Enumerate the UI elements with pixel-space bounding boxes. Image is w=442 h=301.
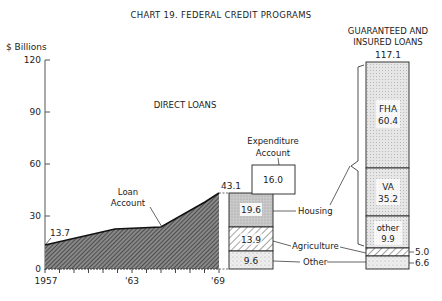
direct-total-label: 43.1 [221,181,241,191]
expenditure-label: Expenditure [247,136,298,146]
expenditure-label: Account [256,148,291,158]
housing-bracket [351,65,364,246]
loan-account-leader [150,207,162,227]
fha-value: 60.4 [378,116,398,126]
agriculture-leader-right [340,247,366,253]
other-value: 9.6 [244,256,259,266]
x-tick-label: 1957 [35,276,58,286]
chart-figure: CHART 19. FEDERAL CREDIT PROGRAMS $ Bill… [0,0,442,301]
x-tick-label: '69 [211,276,225,286]
expenditure-leader [278,158,279,165]
y-tick-label: 30 [30,211,42,221]
loan-account-label: Loan [118,187,138,197]
other-leader-left [273,261,300,262]
loan-account-label: Account [111,198,146,208]
y-tick-label: 60 [30,159,42,169]
bar-g-agriculture [366,248,409,256]
x-tick-label: '63 [125,276,139,286]
other-label: Other [303,257,328,267]
va-name: VA [382,182,395,192]
agriculture-value: 13.9 [241,235,261,245]
fha-name: FHA [379,104,398,114]
guaranteed-label: GUARANTEED AND [348,26,429,36]
g-other2-value: 6.6 [415,258,430,268]
agriculture-leader-left [273,241,291,246]
y-axis-unit: $ Billions [6,42,47,52]
bar-g-other [366,256,409,269]
housing-value: 19.6 [241,205,261,215]
direct-loans-label: DIRECT LOANS [154,100,217,110]
y-ticks [45,60,50,216]
housing-label: Housing [298,206,333,216]
g-other-value: 9.9 [381,234,395,244]
guaranteed-label: INSURED LOANS [353,37,423,47]
start-value-label: 13.7 [50,228,70,238]
g-ag-value: 5.0 [415,247,430,257]
g-other-name: other [377,223,400,233]
y-tick-label: 120 [24,55,41,65]
y-tick-label: 0 [35,264,41,274]
va-value: 35.2 [378,194,398,204]
y-tick-label: 90 [30,107,42,117]
chart-title: CHART 19. FEDERAL CREDIT PROGRAMS [130,10,311,20]
housing-bracket-leader [330,166,350,205]
x-ticks [45,269,219,273]
expenditure-value: 16.0 [263,175,283,185]
agriculture-label: Agriculture [292,241,339,251]
guaranteed-total-label: 117.1 [375,50,401,60]
